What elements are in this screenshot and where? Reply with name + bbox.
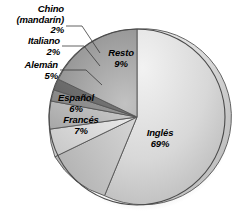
slice-label-resto: Resto 9%	[99, 48, 143, 69]
pie-chart: Chino (mandarín) 2% Italiano 2% Alemán 5…	[0, 0, 234, 216]
slice-value-chino: 2%	[0, 25, 64, 36]
slice-value-frances: 7%	[53, 126, 109, 137]
slice-label-frances: Francés 7%	[53, 115, 109, 136]
slice-label-chino-line2: (mandarín)	[16, 14, 64, 25]
slice-value-italiano: 2%	[0, 47, 60, 58]
slice-label-espanol: Español 6%	[48, 93, 104, 114]
slice-label-ingles-text: Inglés	[147, 127, 174, 138]
slice-label-italiano-text: Italiano	[28, 35, 60, 46]
slice-label-resto-text: Resto	[108, 47, 134, 58]
slice-value-aleman: 5%	[0, 71, 58, 82]
slice-label-aleman: Alemán 5%	[0, 60, 58, 81]
slice-value-ingles: 69%	[137, 139, 183, 150]
slice-value-espanol: 6%	[48, 104, 104, 115]
slice-value-resto: 9%	[99, 59, 143, 70]
slice-label-ingles: Inglés 69%	[137, 128, 183, 149]
slice-label-italiano: Italiano 2%	[0, 36, 60, 57]
slice-label-aleman-text: Alemán	[25, 59, 58, 70]
slice-label-espanol-text: Español	[58, 92, 94, 103]
slice-label-frances-text: Francés	[63, 114, 98, 125]
slice-label-chino-line1: Chino	[38, 3, 64, 14]
slice-label-chino: Chino (mandarín) 2%	[0, 4, 64, 36]
